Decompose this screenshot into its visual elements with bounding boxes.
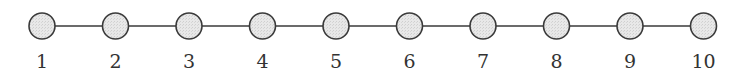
node-label-6: 6 xyxy=(403,50,415,72)
node-label-7: 7 xyxy=(477,50,489,72)
node-1 xyxy=(29,13,55,39)
path-graph-diagram: 12345678910 xyxy=(0,0,746,74)
node-labels: 12345678910 xyxy=(36,50,716,72)
node-6 xyxy=(397,13,423,39)
node-label-10: 10 xyxy=(691,50,715,72)
node-label-5: 5 xyxy=(330,50,342,72)
node-8 xyxy=(544,13,570,39)
node-7 xyxy=(470,13,496,39)
node-label-8: 8 xyxy=(550,50,562,72)
node-9 xyxy=(617,13,643,39)
node-4 xyxy=(250,13,276,39)
node-10 xyxy=(691,13,717,39)
node-label-4: 4 xyxy=(256,50,268,72)
node-label-3: 3 xyxy=(183,50,195,72)
node-label-1: 1 xyxy=(36,50,48,72)
node-2 xyxy=(103,13,129,39)
node-3 xyxy=(176,13,202,39)
node-label-9: 9 xyxy=(624,50,636,72)
node-5 xyxy=(323,13,349,39)
node-label-2: 2 xyxy=(109,50,121,72)
